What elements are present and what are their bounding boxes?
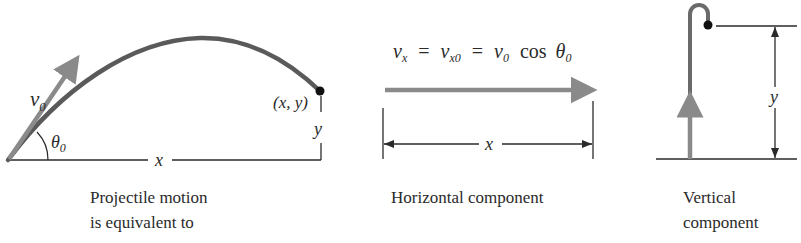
projectile-caption-line1: Projectile motion <box>90 188 208 207</box>
position-point <box>316 87 325 96</box>
horizontal-caption: Horizontal component <box>391 188 544 207</box>
x-label: x <box>154 150 163 170</box>
horizontal-panel: vx = vx0 = v0 cos θ0 x Horizontal compon… <box>383 40 593 207</box>
y-label: y <box>312 119 322 139</box>
vertical-position-point <box>704 21 713 30</box>
point-label: (x, y) <box>273 93 308 112</box>
vertical-panel: y Vertical component <box>656 5 797 232</box>
horizontal-equation: vx = vx0 = v0 cos θ0 <box>393 40 571 66</box>
projectile-motion-diagram: x y θ0 v0 (x, y) Projectile motion is eq… <box>0 0 801 243</box>
angle-arc <box>37 132 48 160</box>
vertical-caption-line2: component <box>683 213 759 232</box>
vertical-caption-line1: Vertical <box>683 188 736 207</box>
projectile-caption-line2: is equivalent to <box>90 213 194 232</box>
vertical-path-hook <box>690 5 708 98</box>
horizontal-x-label: x <box>484 134 493 154</box>
angle-label: θ0 <box>51 132 66 155</box>
projectile-panel: x y θ0 v0 (x, y) Projectile motion is eq… <box>8 38 325 232</box>
velocity-label: v0 <box>30 87 46 114</box>
vertical-y-label: y <box>768 87 778 107</box>
